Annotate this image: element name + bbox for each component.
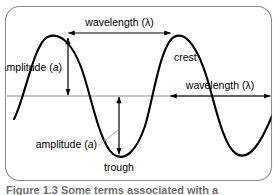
amplitude-top-label: amplitude (a) <box>1 61 62 73</box>
crest-label: crest <box>174 51 197 63</box>
figure-caption: Figure 1.3 Some terms associated with a <box>6 184 219 195</box>
amplitude-bottom-label: amplitude (a) <box>36 138 97 150</box>
wave-diagram-svg: wavelength (λ) wavelength (λ) amplitude … <box>0 0 279 195</box>
wavelength-right-label: wavelength (λ) <box>185 79 254 91</box>
wavelength-top-label: wavelength (λ) <box>84 16 153 28</box>
trough-label: trough <box>104 161 134 173</box>
figure-canvas: wavelength (λ) wavelength (λ) amplitude … <box>0 0 279 195</box>
